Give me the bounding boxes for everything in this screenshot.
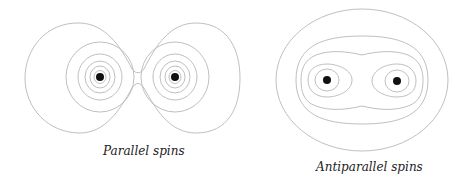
nucleus-dot xyxy=(393,77,401,85)
outer-ellipse xyxy=(276,9,448,151)
nucleus-dot xyxy=(96,73,104,81)
spin-density-diagram xyxy=(0,0,469,178)
third-contour xyxy=(301,52,423,110)
antiparallel-spins-caption: Antiparallel spins xyxy=(316,160,423,174)
antiparallel-spins-contours xyxy=(276,9,448,151)
nucleus-dot xyxy=(323,76,331,84)
second-contour xyxy=(296,36,428,124)
parallel-spins-contours xyxy=(25,23,240,133)
outer-contour xyxy=(25,23,240,133)
nucleus-dot xyxy=(171,73,179,81)
parallel-spins-caption: Parallel spins xyxy=(103,144,185,158)
